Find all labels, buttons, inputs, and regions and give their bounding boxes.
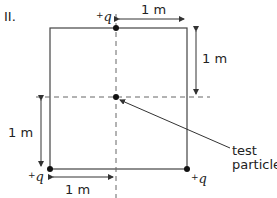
charge-bottom-right-dot <box>184 166 190 172</box>
charge-bottom-right-label: +q <box>191 172 207 185</box>
test-label-line1: test <box>232 144 257 157</box>
charge-top-dot <box>113 25 119 31</box>
top-dimension-label: 1 m <box>141 3 166 16</box>
charge-bottom-left-dot <box>47 166 53 172</box>
bottom-dimension-label: 1 m <box>65 183 90 196</box>
figure-label: II. <box>4 10 16 23</box>
test-particle-pointer <box>120 100 230 148</box>
right-dimension-label: 1 m <box>202 52 227 65</box>
test-particle-dot <box>113 94 119 100</box>
test-label-line2: particle <box>232 158 277 171</box>
left-dimension-label: 1 m <box>8 126 33 139</box>
charge-top-label: +q <box>96 10 112 23</box>
charge-bottom-left-label: +q <box>28 170 44 183</box>
